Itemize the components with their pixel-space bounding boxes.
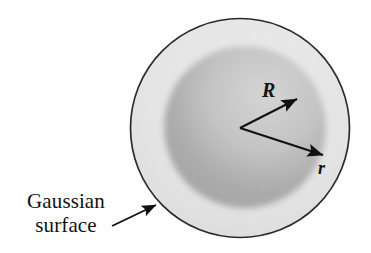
gaussian-surface-pointer-arrow	[112, 205, 156, 226]
gaussian-surface-label: Gaussian surface	[14, 189, 118, 237]
radius-R-label: R	[262, 79, 275, 102]
charged-sphere-grain	[166, 48, 324, 206]
radius-r-label: r	[318, 158, 325, 179]
figure-canvas: Gaussian surface R r	[0, 0, 371, 253]
